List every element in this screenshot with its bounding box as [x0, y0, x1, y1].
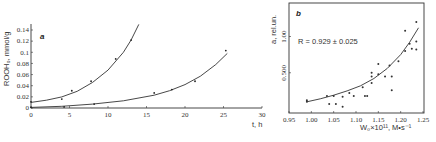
chart-b-data-point — [397, 60, 399, 62]
chart-a-data-point — [130, 39, 132, 41]
chart-b-data-point — [391, 75, 393, 77]
chart-b-data-point — [415, 49, 417, 51]
chart-a-data-point — [63, 106, 65, 108]
chart-a-data-point — [71, 90, 73, 92]
chart-a-data-point — [30, 107, 32, 109]
chart-a-x-tick-label: 5 — [68, 111, 72, 119]
chart-b-data-point — [362, 86, 364, 88]
chart-a-x-tick-label: 20 — [182, 111, 190, 119]
chart-b-data-points — [306, 21, 417, 108]
chart-b-data-point — [371, 82, 373, 84]
chart-a-fit-curve-1 — [31, 24, 139, 102]
chart-a-x-axis-label: t, h — [252, 120, 262, 129]
chart-a-y-axis-label: ROOH₀, mmol/g — [2, 32, 11, 86]
chart-b-data-point — [415, 21, 417, 23]
chart-a-x-tick-label: 15 — [143, 111, 151, 119]
chart-b-data-point — [377, 63, 379, 65]
chart-b-x-tick-label: 1.05 — [328, 116, 341, 124]
chart-a-panel-label: a — [40, 32, 45, 41]
chart-b-data-point — [366, 95, 368, 97]
chart-b-x-axis-label: W₀×10¹¹, M•s⁻¹ — [360, 123, 412, 132]
chart-b-data-point — [353, 95, 355, 97]
chart-a-fit-curves — [31, 24, 227, 107]
chart-b-correlation-annotation: R = 0.929 ± 0.025 — [298, 37, 358, 46]
chart-a-y-tick-label: 0.06 — [17, 71, 30, 79]
chart-b-data-point — [335, 103, 337, 105]
chart-a-x-tick-label: 0 — [29, 111, 33, 119]
chart-b-x-tick-label: 1.00 — [305, 116, 318, 124]
chart-b-data-point — [404, 30, 406, 32]
chart-a-x-tick-label: 25 — [220, 111, 228, 119]
chart-a-y-tick-label: 0.02 — [17, 93, 30, 101]
chart-a-data-point — [171, 89, 173, 91]
chart-b-y-axis-label: a, rel.un. — [269, 15, 278, 44]
chart-b-data-point — [342, 106, 344, 108]
chart-a-data-point — [90, 80, 92, 82]
chart-b-axes — [289, 3, 424, 113]
chart-b-data-point — [389, 65, 391, 67]
chart-b-data-point — [371, 75, 373, 77]
chart-b-data-point — [348, 92, 350, 94]
chart-a-y-tick-label: 0.08 — [17, 60, 30, 68]
chart-a-y-tick-label: 0.1 — [20, 49, 29, 57]
chart-b-data-point — [371, 72, 373, 74]
chart-a-y-tick-label: 0.12 — [17, 37, 30, 45]
chart-b-y-tick-label: 1.00 — [280, 30, 288, 43]
chart-a-plot: 05101520253000.020.040.060.080.10.120.14… — [0, 0, 436, 142]
chart-a-y-tick-label: 0.04 — [17, 82, 30, 90]
chart-b-data-point — [404, 50, 406, 52]
chart-b-data-point — [377, 73, 379, 75]
chart-a-ticks: 05101520253000.020.040.060.080.10.120.14 — [17, 26, 266, 119]
chart-b-data-point — [411, 48, 413, 50]
chart-a-y-tick-label: 0 — [26, 104, 30, 112]
chart-a-data-point — [225, 50, 227, 52]
chart-a-fit-curve-2 — [31, 53, 227, 107]
chart-a-data-point — [30, 101, 32, 103]
chart-a-data-point — [93, 103, 95, 105]
chart-b-data-point — [364, 95, 366, 97]
chart-a-data-point — [115, 58, 117, 60]
chart-b-data-point — [333, 95, 335, 97]
chart-b-data-point — [326, 95, 328, 97]
chart-a-data-point — [153, 92, 155, 94]
chart-a-x-tick-label: 30 — [259, 111, 267, 119]
chart-a-data-point — [61, 98, 63, 100]
chart-b-x-tick-label: 1.25 — [417, 116, 430, 124]
chart-b-data-point — [306, 101, 308, 103]
chart-b-x-tick-label: 0.95 — [283, 116, 296, 124]
chart-b-data-point — [328, 103, 330, 105]
chart-a-x-tick-label: 10 — [105, 111, 113, 119]
chart-b-data-point — [342, 96, 344, 98]
chart-b-data-point — [384, 75, 386, 77]
chart-a-data-point — [194, 80, 196, 82]
chart-a-data-points — [30, 39, 227, 108]
chart-b-panel-label: b — [296, 9, 301, 18]
chart-b-data-point — [391, 89, 393, 91]
chart-b-frame — [289, 3, 424, 113]
chart-b-data-point — [415, 41, 417, 43]
chart-b-data-point — [409, 43, 411, 45]
chart-b-y-tick-label: 0.500 — [280, 64, 288, 80]
chart-a-y-tick-label: 0.14 — [17, 26, 30, 34]
